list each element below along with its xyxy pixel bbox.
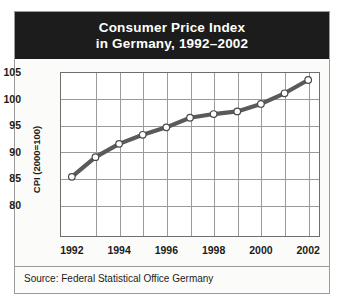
x-tick-label: 1994 [94, 244, 144, 256]
data-point-marker [163, 124, 170, 131]
x-tick-label: 2002 [283, 244, 333, 256]
source-divider [15, 266, 329, 267]
data-point-marker [92, 154, 99, 161]
source-note: Source: Federal Statistical Office Germa… [24, 273, 213, 284]
y-tick-label: 90 [0, 146, 21, 158]
x-tick-label: 2000 [236, 244, 286, 256]
y-tick-label: 95 [0, 119, 21, 131]
data-point-marker [305, 77, 312, 84]
data-point-marker [139, 132, 146, 139]
data-point-marker [69, 174, 76, 181]
data-point-marker [258, 101, 265, 108]
data-point-marker [281, 90, 288, 97]
chart-figure: Consumer Price Index in Germany, 1992–20… [14, 11, 330, 294]
y-tick-label: 105 [0, 66, 21, 78]
data-point-marker [187, 114, 194, 121]
y-tick-label: 85 [0, 172, 21, 184]
data-series-line [72, 80, 308, 177]
x-tick-label: 1992 [47, 244, 97, 256]
y-tick-label: 80 [0, 199, 21, 211]
data-point-marker [116, 141, 123, 148]
x-tick-label: 1996 [141, 244, 191, 256]
data-point-marker [234, 108, 241, 115]
x-tick-label: 1998 [189, 244, 239, 256]
data-point-marker [210, 111, 217, 118]
y-tick-label: 100 [0, 93, 21, 105]
